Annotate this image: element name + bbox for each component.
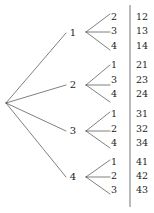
leaf-label: 3 bbox=[108, 75, 120, 85]
outcome-label: 13 bbox=[136, 26, 148, 36]
tree-edge-3-1 bbox=[86, 112, 110, 131]
outcome-label: 14 bbox=[136, 41, 148, 51]
tree-edge-4-1 bbox=[86, 160, 110, 177]
outcome-label: 24 bbox=[136, 89, 148, 99]
tree-edge-1-4 bbox=[86, 32, 110, 50]
leaf-label: 2 bbox=[108, 171, 120, 181]
branch-node-2: 2 bbox=[67, 80, 79, 90]
leaf-label: 1 bbox=[108, 157, 120, 167]
tree-edge-root-4 bbox=[6, 103, 66, 177]
outcome-label: 23 bbox=[136, 75, 148, 85]
outcome-label: 42 bbox=[136, 171, 148, 181]
tree-diagram-figure: 1 2 3 4 2 12 3 13 4 14 1 21 3 23 4 24 1 … bbox=[0, 0, 154, 213]
tree-edge-2-4 bbox=[86, 85, 110, 102]
tree-edge-root-2 bbox=[6, 85, 66, 103]
outcome-label: 12 bbox=[136, 12, 148, 22]
branch-node-4: 4 bbox=[67, 172, 79, 182]
leaf-label: 3 bbox=[108, 185, 120, 195]
branch-node-1: 1 bbox=[67, 28, 79, 38]
outcome-label: 34 bbox=[136, 138, 148, 148]
leaf-label: 3 bbox=[108, 26, 120, 36]
outcome-label: 31 bbox=[136, 109, 148, 119]
outcome-label: 21 bbox=[136, 60, 148, 70]
tree-edge-root-1 bbox=[6, 33, 66, 103]
leaf-label: 4 bbox=[108, 138, 120, 148]
tree-edge-4-3 bbox=[86, 177, 110, 194]
tree-edge-root-3 bbox=[6, 103, 66, 131]
tree-edge-2-1 bbox=[86, 65, 110, 85]
leaf-label: 1 bbox=[108, 109, 120, 119]
outcome-label: 43 bbox=[136, 185, 148, 195]
leaf-label: 4 bbox=[108, 41, 120, 51]
outcome-label: 41 bbox=[136, 157, 148, 167]
leaf-label: 2 bbox=[108, 124, 120, 134]
edges-layer bbox=[6, 14, 110, 194]
leaf-label: 4 bbox=[108, 89, 120, 99]
branch-node-3: 3 bbox=[67, 126, 79, 136]
leaf-label: 2 bbox=[108, 12, 120, 22]
outcome-label: 32 bbox=[136, 124, 148, 134]
tree-edge-1-2 bbox=[86, 14, 110, 32]
leaf-label: 1 bbox=[108, 60, 120, 70]
tree-edge-3-4 bbox=[86, 131, 110, 148]
